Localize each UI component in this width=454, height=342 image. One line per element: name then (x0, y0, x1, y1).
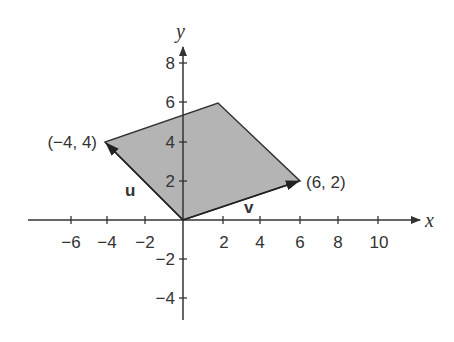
x-tick-label: 8 (333, 233, 342, 252)
point-label-u-end: (−4, 4) (47, 133, 97, 152)
x-tick-label: 10 (370, 233, 389, 252)
y-tick-label: −4 (156, 289, 175, 308)
vector-v-label: v (244, 198, 254, 217)
y-tick-label: 8 (166, 54, 175, 73)
coordinate-plane: −6 −4 −2 2 4 6 8 10 8 6 4 2 −2 −4 x y u … (0, 0, 454, 342)
y-tick-label: 4 (166, 133, 175, 152)
x-tick-label: −2 (135, 233, 154, 252)
y-tick-label: 2 (166, 172, 175, 191)
y-tick-label: 6 (166, 93, 175, 112)
point-label-v-end: (6, 2) (306, 173, 346, 192)
x-tick-label: −6 (61, 233, 80, 252)
x-tick-label: 2 (219, 233, 228, 252)
vector-u-label: u (125, 181, 135, 200)
y-axis-label: y (174, 20, 185, 43)
x-tick-label: 6 (295, 233, 304, 252)
x-tick-label: 4 (255, 233, 264, 252)
parallelogram (105, 103, 300, 220)
x-axis-label: x (424, 209, 434, 231)
y-tick-label: −2 (156, 250, 175, 269)
x-tick-label: −4 (97, 233, 116, 252)
